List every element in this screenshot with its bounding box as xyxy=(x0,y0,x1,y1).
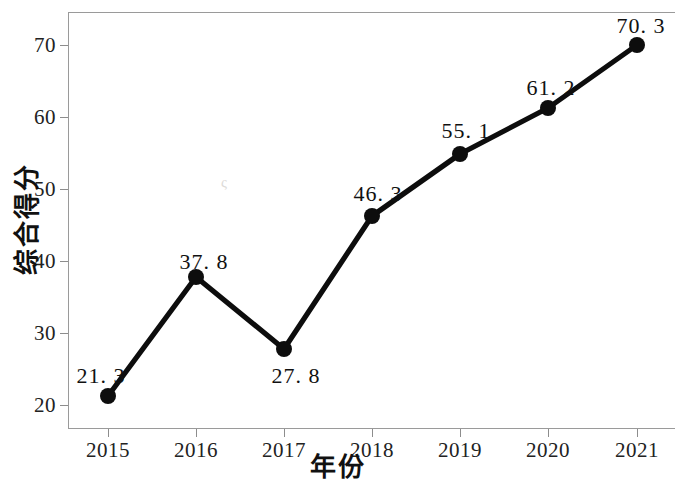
data-point-label: 70. 3 xyxy=(617,15,666,37)
line-chart: 70 60 50 40 30 20 2015 2016 2017 2018 20… xyxy=(0,0,675,480)
data-point-marker xyxy=(100,388,116,404)
data-point-label: 46. 3 xyxy=(354,183,403,205)
data-point-marker xyxy=(540,100,556,116)
data-point-label: 37. 8 xyxy=(180,251,229,273)
data-point-marker xyxy=(629,37,645,53)
data-point-label: 27. 8 xyxy=(272,365,321,387)
data-point-marker xyxy=(452,146,468,162)
data-point-marker xyxy=(276,341,292,357)
y-axis-title: 综合得分 xyxy=(6,109,43,329)
data-point-label: 55. 1 xyxy=(442,120,491,142)
data-point-marker xyxy=(364,208,380,224)
data-point-label: 21. 3 xyxy=(77,365,126,387)
data-point-label: 61. 2 xyxy=(527,77,576,99)
x-axis-title: 年份 xyxy=(0,446,675,480)
data-series-group xyxy=(0,0,675,480)
